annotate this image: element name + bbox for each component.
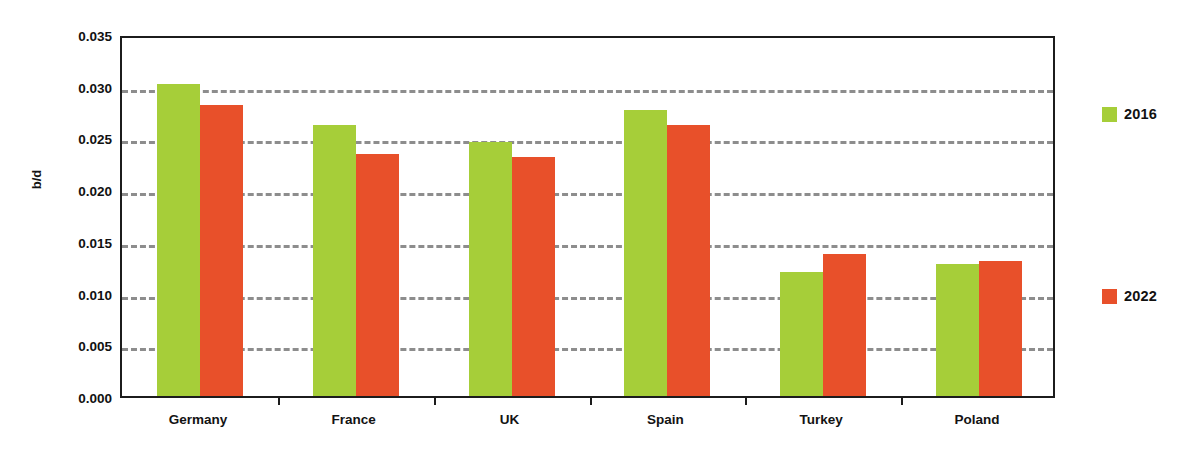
plot-area	[120, 36, 1055, 398]
bar-spain-2022	[667, 125, 710, 396]
bar-poland-2016	[936, 264, 979, 396]
legend-item-2016[interactable]: 2016	[1102, 106, 1157, 122]
legend-label-2016: 2016	[1124, 106, 1157, 122]
gridline	[122, 297, 1053, 300]
x-tick	[434, 396, 436, 405]
gridline	[122, 141, 1053, 144]
y-tick-label: 0.020	[56, 184, 112, 199]
x-tick-label-germany: Germany	[169, 412, 228, 427]
bar-uk-2022	[512, 157, 555, 396]
x-tick-label-poland: Poland	[955, 412, 1000, 427]
bar-poland-2022	[979, 261, 1022, 396]
x-tick	[901, 396, 903, 405]
y-axis-label: b/d	[29, 150, 44, 210]
y-tick-label: 0.005	[56, 339, 112, 354]
y-tick-label: 0.025	[56, 132, 112, 147]
x-tick-label-turkey: Turkey	[800, 412, 843, 427]
x-tick	[590, 396, 592, 405]
y-tick-label: 0.000	[56, 391, 112, 406]
bar-france-2022	[356, 154, 399, 396]
y-tick-label: 0.035	[56, 29, 112, 44]
x-tick-label-uk: UK	[500, 412, 520, 427]
bar-germany-2022	[200, 105, 243, 396]
x-tick	[745, 396, 747, 405]
y-tick-label: 0.010	[56, 287, 112, 302]
legend-item-2022[interactable]: 2022	[1102, 288, 1157, 304]
bar-spain-2016	[624, 110, 667, 396]
legend-label-2022: 2022	[1124, 288, 1157, 304]
y-axis-tick-labels: 0.0000.0050.0100.0150.0200.0250.0300.035	[50, 0, 112, 458]
legend-swatch-2016	[1102, 107, 1117, 122]
x-tick	[278, 396, 280, 405]
bar-france-2016	[313, 125, 356, 396]
x-tick-label-spain: Spain	[647, 412, 684, 427]
y-tick-label: 0.030	[56, 80, 112, 95]
bar-germany-2016	[157, 84, 200, 396]
x-tick-label-france: France	[332, 412, 376, 427]
gridline	[122, 90, 1053, 93]
bar-turkey-2022	[823, 254, 866, 396]
gridline	[122, 245, 1053, 248]
gridline	[122, 193, 1053, 196]
bar-uk-2016	[469, 142, 512, 396]
chart-figure: b/d 0.0000.0050.0100.0150.0200.0250.0300…	[0, 0, 1177, 458]
legend-swatch-2022	[1102, 289, 1117, 304]
gridline	[122, 348, 1053, 351]
bar-turkey-2016	[780, 272, 823, 396]
y-tick-label: 0.015	[56, 235, 112, 250]
